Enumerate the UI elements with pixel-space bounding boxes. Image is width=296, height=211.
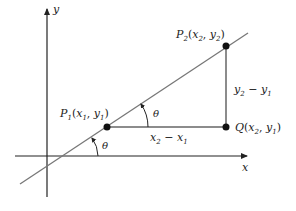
- vertical-leg-label: y2 − y1: [233, 83, 272, 98]
- slope-diagram: y x P2(x2, y2) P1(x1, y1) Q(x2, y1) y2 −…: [0, 0, 296, 211]
- point-p1: [104, 124, 111, 131]
- angle-arc-x-axis: [92, 138, 98, 156]
- line-through-points: [20, 33, 248, 184]
- horizontal-leg-label: x2 − x1: [150, 131, 188, 146]
- point-p2-label: P2(x2, y2): [175, 28, 225, 43]
- theta-label-p1: θ: [153, 108, 159, 119]
- point-q-label: Q(x2, y1): [235, 121, 281, 136]
- point-p2: [223, 43, 230, 50]
- angle-arc-p1: [141, 104, 148, 127]
- point-p1-label: P1(x1, y1): [59, 107, 109, 122]
- y-axis-label: y: [52, 3, 60, 16]
- theta-label-x-axis: θ: [102, 140, 108, 151]
- point-q: [223, 124, 230, 131]
- x-axis-label: x: [242, 161, 249, 174]
